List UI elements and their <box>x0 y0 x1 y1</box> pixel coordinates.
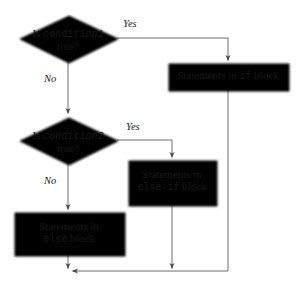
decision-condition2-shape <box>19 117 117 164</box>
edge-condition2-yes <box>117 140 172 158</box>
edge-label-condition2-no: No <box>44 175 56 186</box>
process-if-block-shape <box>168 63 288 90</box>
edge-label-condition1-yes: Yes <box>123 18 137 29</box>
flowchart-graphics <box>0 0 301 294</box>
process-else-block-shape <box>14 212 124 255</box>
edge-label-condition2-yes: Yes <box>126 121 140 132</box>
process-elseif-block-shape <box>128 160 216 205</box>
flowchart-canvas: Is condition1 true? Is condition2 true? … <box>0 0 301 294</box>
decision-condition1-shape <box>19 15 117 62</box>
edge-label-condition1-no: No <box>44 73 56 84</box>
edge-condition1-yes <box>117 38 228 61</box>
